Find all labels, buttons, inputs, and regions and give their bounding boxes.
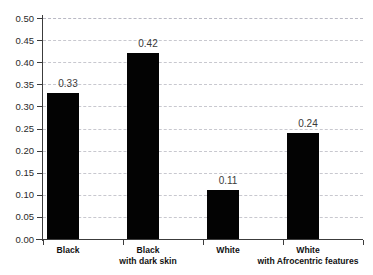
x-category-label-line1: Black: [137, 245, 160, 255]
bar-value-label: 0.24: [287, 119, 329, 129]
y-tick-label: 0.05: [4, 212, 34, 222]
bar-black-dark-skin: [127, 53, 159, 239]
y-tick-label: 0.35: [4, 80, 34, 90]
bar-chart: 0.50 0.45 0.40 0.35 0.30 0.25 0.20 0.15 …: [0, 0, 373, 275]
gridline: [43, 62, 363, 63]
y-tick-label: 0.00: [4, 235, 34, 245]
x-category-label-line1: White: [216, 245, 239, 255]
x-axis-line: [36, 239, 363, 240]
gridline: [43, 18, 363, 19]
y-tick-label: 0.10: [4, 190, 34, 200]
y-tick-label: 0.45: [4, 36, 34, 46]
y-tick-label: 0.15: [4, 168, 34, 178]
chart-title: [0, 0, 373, 4]
bar-white: [207, 190, 239, 239]
y-tick-label: 0.50: [4, 14, 34, 24]
bar-value-label: 0.42: [127, 39, 169, 49]
x-category-label-line1: Black: [57, 245, 80, 255]
y-tick-label: 0.25: [4, 124, 34, 134]
bar-black: [47, 93, 79, 239]
y-tick-label: 0.40: [4, 58, 34, 68]
x-category-label-black-dark-skin: Black with dark skin: [103, 245, 193, 266]
x-category-label-white-afrocentric: White with Afrocentric features: [248, 245, 368, 266]
bar-value-label: 0.11: [207, 176, 249, 186]
bar-value-label: 0.33: [47, 79, 89, 89]
gridline: [43, 84, 363, 85]
x-category-label-line2: with Afrocentric features: [248, 256, 368, 267]
gridline: [43, 106, 363, 107]
y-tick-label: 0.20: [4, 146, 34, 156]
x-category-label-black: Black: [23, 245, 113, 256]
x-category-label-line1: White: [296, 245, 319, 255]
gridline: [43, 40, 363, 41]
x-category-label-line2: with dark skin: [103, 256, 193, 267]
y-axis: 0.50 0.45 0.40 0.35 0.30 0.25 0.20 0.15 …: [0, 0, 34, 275]
y-tick-label: 0.30: [4, 102, 34, 112]
bar-white-afrocentric: [287, 133, 319, 239]
